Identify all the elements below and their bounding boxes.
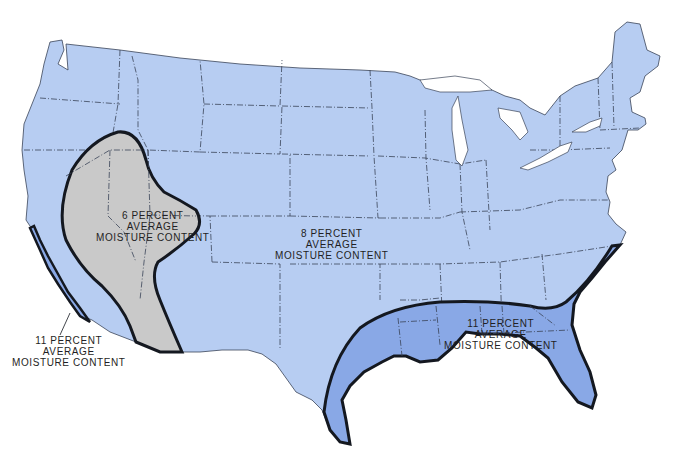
- zone-8-line-1: 8 PERCENT: [275, 228, 389, 239]
- zone-6-line-2: AVERAGE: [96, 221, 210, 232]
- zone-11-california-label: 11 PERCENT AVERAGE MOISTURE CONTENT: [12, 335, 126, 368]
- zone-11-ca-line-1: 11 PERCENT: [12, 335, 126, 346]
- zone-11-ca-line-2: AVERAGE: [12, 346, 126, 357]
- zone-11-se-line-2: AVERAGE: [444, 329, 558, 340]
- zone-8-line-3: MOISTURE CONTENT: [275, 250, 389, 261]
- zone-11-southeast-label: 11 PERCENT AVERAGE MOISTURE CONTENT: [444, 318, 558, 351]
- zone-11-se-line-3: MOISTURE CONTENT: [444, 340, 558, 351]
- zone-8-label: 8 PERCENT AVERAGE MOISTURE CONTENT: [275, 228, 389, 261]
- zone-11-ca-line-3: MOISTURE CONTENT: [12, 357, 126, 368]
- zone-6-line-3: MOISTURE CONTENT: [96, 232, 210, 243]
- zone-6-label: 6 PERCENT AVERAGE MOISTURE CONTENT: [96, 210, 210, 243]
- zone-8-line-2: AVERAGE: [275, 239, 389, 250]
- california-label-leader: [60, 313, 70, 335]
- zone-6-line-1: 6 PERCENT: [96, 210, 210, 221]
- zone-11-se-line-1: 11 PERCENT: [444, 318, 558, 329]
